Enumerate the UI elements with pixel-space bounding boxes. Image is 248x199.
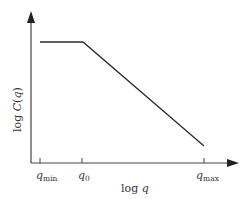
spectrum-curve: [40, 42, 204, 146]
tick-label-qmax: qmax: [196, 169, 220, 183]
tick-label-q0: q0: [78, 169, 90, 183]
power-spectrum-diagram: qmin q0 qmax log q log C(q): [0, 0, 248, 199]
tick-label-qmin: qmin: [36, 169, 58, 183]
x-axis-arrowhead-icon: [227, 159, 239, 167]
x-axis-label: log q: [121, 182, 149, 195]
y-axis-label: log C(q): [11, 87, 24, 132]
y-axis-arrowhead-icon: [27, 11, 35, 23]
